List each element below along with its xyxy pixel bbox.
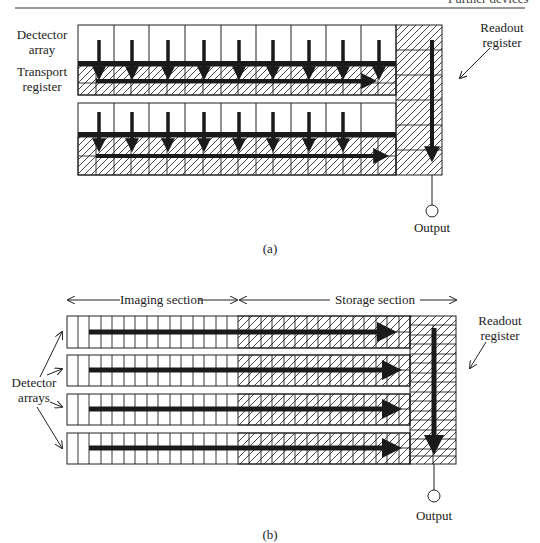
label-line: Transport [10,64,74,79]
block-1 [78,25,396,95]
figure-a [78,25,490,217]
label-storage-section: Storage section [330,292,420,307]
label-line: register [470,35,534,50]
readout-register-a [396,25,442,175]
caption-b: (b) [250,527,290,542]
output-node-a [426,205,438,217]
label-line: Readout [470,20,534,35]
caption-a: (a) [250,241,290,256]
block-2 [78,103,396,175]
label-line: Dectector [10,27,74,42]
label-line: array [10,42,74,57]
label-readout-register-a: Readout register [470,20,534,50]
label-imaging-section: Imaging section [120,292,200,307]
figure-b [37,300,486,502]
label-line: arrays [6,390,62,405]
label-output-b: Output [404,508,464,523]
readout-register-b [410,316,456,464]
ccd-architecture-diagram [0,0,540,543]
label-line: register [10,79,74,94]
label-line: register [468,328,532,343]
label-readout-register-b: Readout register [468,313,532,343]
label-transport-register: Transport register [10,64,74,94]
label-line: Detector [6,375,62,390]
output-node-b [428,490,440,502]
label-detector-array: Dectector array [10,27,74,57]
label-line: Readout [468,313,532,328]
label-detector-arrays: Detector arrays [6,375,62,405]
label-output-a: Output [402,220,462,235]
